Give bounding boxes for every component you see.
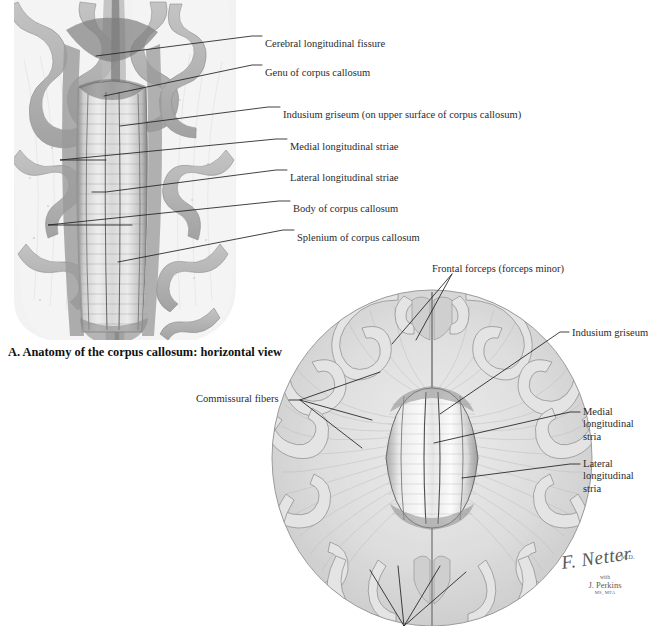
label-frontal-forceps: Frontal forceps (forceps minor) [432,263,564,275]
figure-b-artwork [254,290,610,626]
label-medial-longitudinal-stria: Medial longitudinal stria [583,406,645,443]
artist-signature: F. Netter M.D. with J. Perkins MS, MFA [563,548,647,595]
label-body-of-corpus-callosum: Body of corpus callosum [293,203,398,215]
signature-perkins-credentials: MS, MFA [563,590,647,595]
plate-artwork [0,0,651,626]
label-indusium-griseum-lower: Indusium griseum [572,327,648,339]
label-commissural-fibers: Commissural fibers [196,393,279,405]
signature-netter-credentials: M.D. [621,554,635,560]
figure-a-caption: A. Anatomy of the corpus callosum: horiz… [8,345,282,360]
anatomy-plate: Cerebral longitudinal fissure Genu of co… [0,0,651,626]
label-cerebral-longitudinal-fissure: Cerebral longitudinal fissure [265,38,385,50]
label-lateral-longitudinal-stria: Lateral longitudinal stria [583,458,645,495]
label-indusium-griseum: Indusium griseum (on upper surface of co… [283,109,521,121]
label-lateral-longitudinal-striae: Lateral longitudinal striae [290,172,398,184]
label-medial-longitudinal-striae: Medial longitudinal striae [290,141,398,153]
signature-perkins: J. Perkins [563,580,647,590]
label-splenium-of-corpus-callosum: Splenium of corpus callosum [297,232,420,244]
label-genu-of-corpus-callosum: Genu of corpus callosum [265,67,370,79]
